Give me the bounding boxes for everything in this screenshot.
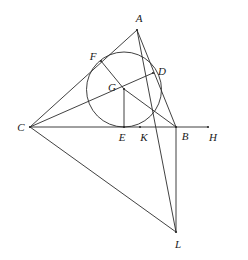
point-B	[175, 126, 177, 128]
point-G	[123, 88, 125, 90]
point-C	[29, 126, 31, 128]
segment-A-C	[30, 30, 137, 127]
point-L	[175, 231, 177, 233]
label-F: F	[90, 51, 97, 62]
point-F	[100, 60, 102, 62]
label-H: H	[209, 132, 217, 143]
label-C: C	[17, 122, 24, 133]
label-B: B	[182, 131, 189, 142]
label-K: K	[140, 132, 147, 143]
point-E	[123, 126, 125, 128]
point-A	[136, 29, 138, 31]
segment-C-D	[30, 73, 153, 127]
point-H	[207, 126, 209, 128]
label-A: A	[136, 13, 143, 24]
label-D: D	[158, 66, 166, 77]
point-D	[152, 72, 154, 74]
label-L: L	[175, 239, 181, 250]
label-G: G	[108, 82, 116, 93]
label-E: E	[119, 132, 126, 143]
segment-C-L	[30, 127, 176, 232]
geometry-figure: AFDGCEKBHL	[0, 0, 248, 260]
point-K	[139, 126, 141, 128]
